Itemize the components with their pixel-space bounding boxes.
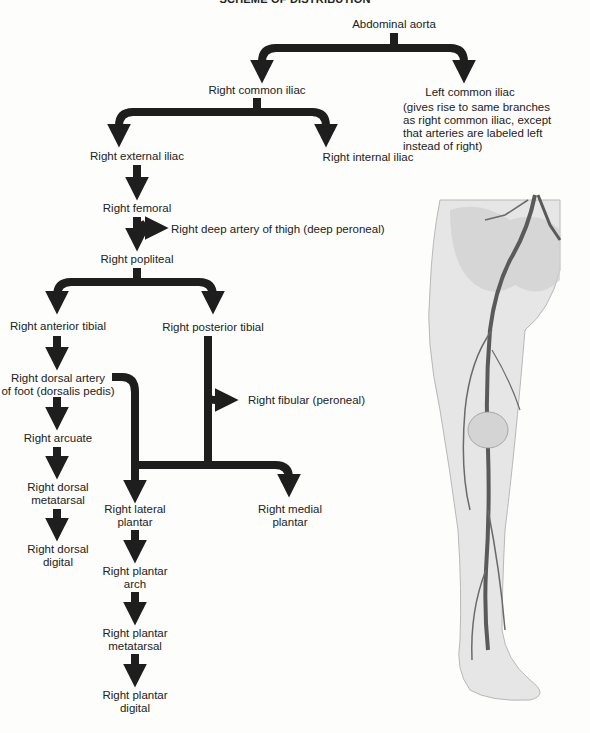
node-right-dorsal-digital: Right dorsal digital — [27, 543, 88, 569]
node-right-lateral-plantar: Right lateral plantar — [104, 503, 165, 529]
node-right-plantar-digital: Right plantar digital — [102, 689, 167, 715]
node-right-common-iliac: Right common iliac — [208, 84, 305, 97]
node-right-dorsal-metatarsal: Right dorsal metatarsal — [27, 481, 88, 507]
node-right-deep-artery-thigh: Right deep artery of thigh (deep peronea… — [171, 223, 385, 236]
node-right-anterior-tibial: Right anterior tibial — [10, 320, 106, 333]
node-right-femoral: Right femoral — [103, 202, 171, 215]
leg-arteries-illustration — [410, 190, 585, 710]
node-right-dorsal-artery-foot: Right dorsal artery of foot (dorsalis pe… — [1, 372, 114, 398]
node-right-external-iliac: Right external iliac — [90, 150, 184, 163]
node-right-medial-plantar: Right medial plantar — [258, 503, 322, 529]
node-right-popliteal: Right popliteal — [101, 253, 174, 266]
node-right-arcuate: Right arcuate — [24, 432, 92, 445]
node-abdominal-aorta: Abdominal aorta — [352, 18, 436, 31]
node-right-internal-iliac: Right internal iliac — [323, 151, 414, 164]
node-left-common-iliac: Left common iliac — [425, 86, 514, 99]
left-common-iliac-note: (gives rise to same branches as right co… — [403, 101, 551, 153]
node-right-plantar-metatarsal: Right plantar metatarsal — [102, 627, 167, 653]
node-right-posterior-tibial: Right posterior tibial — [162, 321, 264, 334]
node-right-fibular: Right fibular (peroneal) — [248, 394, 365, 407]
node-right-plantar-arch: Right plantar arch — [102, 565, 167, 591]
